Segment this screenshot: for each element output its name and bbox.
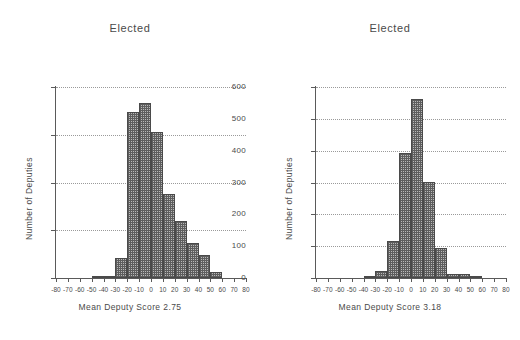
y-axis-tick bbox=[311, 214, 316, 215]
histogram-bar bbox=[364, 276, 376, 278]
histogram-bar bbox=[411, 99, 423, 278]
x-axis-tick bbox=[246, 278, 247, 282]
histogram-bar bbox=[387, 241, 399, 278]
x-axis-tick bbox=[340, 278, 341, 282]
x-axis-tick bbox=[316, 278, 317, 282]
histogram-bar bbox=[187, 243, 199, 278]
x-axis-tick bbox=[482, 278, 483, 282]
y-axis-tick-label: 200 bbox=[206, 210, 246, 218]
x-axis-tick bbox=[127, 278, 128, 282]
x-axis-tick bbox=[352, 278, 353, 282]
x-axis-tick bbox=[506, 278, 507, 282]
x-axis-tick bbox=[399, 278, 400, 282]
histogram-bar bbox=[151, 132, 163, 278]
x-axis-tick-label: 80 bbox=[494, 286, 518, 293]
y-axis-tick bbox=[311, 246, 316, 247]
x-axis-tick bbox=[199, 278, 200, 282]
x-axis-tick bbox=[151, 278, 152, 282]
x-axis-tick bbox=[494, 278, 495, 282]
x-axis-tick bbox=[115, 278, 116, 282]
y-axis-tick bbox=[311, 87, 316, 88]
x-axis-tick bbox=[364, 278, 365, 282]
histogram-bar bbox=[375, 271, 387, 278]
y-axis-label-right: Number of Deputies bbox=[284, 157, 294, 240]
y-axis-tick bbox=[51, 183, 56, 184]
histogram-bar bbox=[127, 112, 139, 278]
x-axis-tick bbox=[411, 278, 412, 282]
x-axis-tick-label: 80 bbox=[234, 286, 258, 293]
y-axis-tick bbox=[311, 151, 316, 152]
x-axis-tick bbox=[387, 278, 388, 282]
x-axis-tick bbox=[375, 278, 376, 282]
y-axis-tick bbox=[51, 135, 56, 136]
x-axis-label-right: Mean Deputy Score 3.18 bbox=[260, 302, 520, 312]
histogram-bar bbox=[399, 153, 411, 278]
histogram-bar bbox=[175, 221, 187, 278]
x-axis-tick bbox=[470, 278, 471, 282]
x-axis-tick bbox=[163, 278, 164, 282]
y-axis-tick bbox=[311, 183, 316, 184]
histogram-bar bbox=[447, 274, 459, 278]
x-axis-tick bbox=[175, 278, 176, 282]
x-axis-label-left: Mean Deputy Score 2.75 bbox=[0, 302, 260, 312]
x-axis-tick bbox=[56, 278, 57, 282]
histogram-bar bbox=[459, 274, 471, 278]
histogram-bar bbox=[435, 248, 447, 278]
histogram-bar bbox=[139, 103, 151, 278]
histogram-bar bbox=[115, 258, 127, 278]
y-axis-label-left: Number of Deputies bbox=[24, 157, 34, 240]
y-axis-tick bbox=[51, 230, 56, 231]
histogram-bar bbox=[163, 194, 175, 278]
chart-title-right: Elected bbox=[260, 22, 520, 34]
histogram-bar bbox=[104, 276, 116, 278]
histogram-bar bbox=[470, 276, 482, 278]
y-axis-tick-label: 500 bbox=[206, 115, 246, 123]
x-axis-tick bbox=[139, 278, 140, 282]
x-axis-tick bbox=[80, 278, 81, 282]
x-axis-tick bbox=[92, 278, 93, 282]
y-axis-tick-label: 300 bbox=[206, 179, 246, 187]
y-axis-tick bbox=[311, 119, 316, 120]
histogram-bar bbox=[423, 182, 435, 278]
chart-title-left: Elected bbox=[0, 22, 260, 34]
y-axis-tick bbox=[51, 87, 56, 88]
histogram-bar bbox=[92, 276, 104, 278]
x-axis-tick bbox=[68, 278, 69, 282]
x-axis-tick bbox=[328, 278, 329, 282]
x-axis-tick bbox=[459, 278, 460, 282]
x-axis-tick bbox=[104, 278, 105, 282]
y-axis-tick-label: 400 bbox=[206, 147, 246, 155]
plot-area-right: 0100200300400500600-80-70-60-50-40-30-20… bbox=[316, 87, 506, 278]
x-axis-tick bbox=[187, 278, 188, 282]
y-axis-tick-label: 600 bbox=[206, 83, 246, 91]
y-axis-tick-label: 0 bbox=[206, 274, 246, 282]
y-axis-tick-label: 100 bbox=[206, 242, 246, 250]
x-axis-tick bbox=[447, 278, 448, 282]
x-axis-tick bbox=[423, 278, 424, 282]
figure-canvas: Elected Number of Deputies Mean Deputy S… bbox=[0, 0, 520, 340]
y-gridline bbox=[316, 87, 506, 88]
x-axis-tick bbox=[435, 278, 436, 282]
